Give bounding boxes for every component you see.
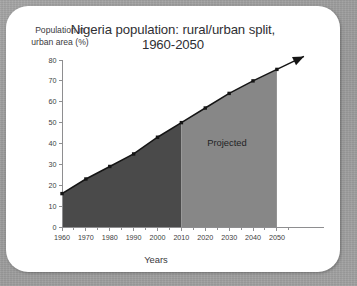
y-axis-label: Population in urban area (%) <box>20 25 100 48</box>
y-axis-tick-label: 20 <box>33 181 57 190</box>
x-axis-tick-label: 1990 <box>121 233 147 242</box>
y-axis-tick-label: 70 <box>33 76 57 85</box>
y-axis-tick-label: 80 <box>33 56 57 65</box>
x-axis-tick-label: 1960 <box>49 233 75 242</box>
x-axis-tick-label: 2000 <box>145 233 171 242</box>
y-axis-tick-label: 0 <box>33 223 57 232</box>
y-axis-label-line-2: urban area (%) <box>20 37 100 49</box>
x-axis-tick-label: 2050 <box>264 233 290 242</box>
x-axis-label: Years <box>6 255 306 266</box>
y-axis-tick-label: 60 <box>33 97 57 106</box>
x-axis-tick-label: 1970 <box>73 233 99 242</box>
x-axis-tick-label: 2020 <box>192 233 218 242</box>
screenshot-root: Nigeria population: rural/urban split, 1… <box>0 0 357 286</box>
y-axis-tick-label: 50 <box>33 118 57 127</box>
projected-region-annotation: Projected <box>207 138 247 149</box>
y-axis-label-line-1: Population in <box>20 25 100 37</box>
y-axis-tick-label: 10 <box>33 202 57 211</box>
chart-title-line-1: Nigeria population: rural/urban split, <box>71 22 275 37</box>
chart-figure: Nigeria population: rural/urban split, 1… <box>6 6 340 272</box>
x-axis-tick-label: 2040 <box>240 233 266 242</box>
x-axis-tick-label: 2030 <box>216 233 242 242</box>
x-axis-tick-label: 1980 <box>97 233 123 242</box>
x-axis-tick-label: 2010 <box>168 233 194 242</box>
figure-card: Nigeria population: rural/urban split, 1… <box>6 6 340 272</box>
trend-arrow-icon <box>277 56 304 69</box>
y-axis-tick-label: 40 <box>33 139 57 148</box>
y-axis-tick-label: 30 <box>33 160 57 169</box>
